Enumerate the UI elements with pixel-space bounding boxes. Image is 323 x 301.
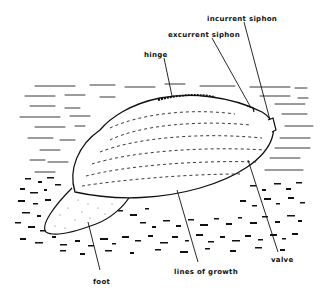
- label-valve: valve: [271, 256, 294, 264]
- label-incurrent-siphon: incurrent siphon: [207, 15, 277, 23]
- label-foot: foot: [93, 278, 110, 286]
- label-hinge: hinge: [144, 51, 168, 59]
- label-excurrent-siphon: excurrent siphon: [168, 31, 240, 39]
- label-lines-of-growth: lines of growth: [174, 268, 238, 276]
- shell-outline: [73, 95, 274, 197]
- clam-anatomy-diagram: incurrent siphon excurrent siphon hinge …: [0, 0, 323, 301]
